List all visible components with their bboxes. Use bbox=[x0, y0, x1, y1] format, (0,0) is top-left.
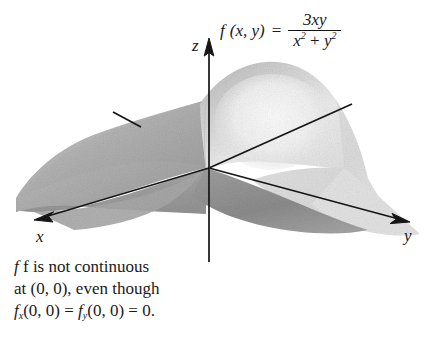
y-axis-label: y bbox=[404, 226, 412, 246]
caption-line-3-mid: (0, 0) = bbox=[23, 301, 74, 320]
denominator-exp-2: 2 bbox=[331, 31, 336, 42]
caption-line-1-text: f is not continuous bbox=[23, 257, 149, 276]
formula-arguments: (x, y) bbox=[230, 22, 265, 39]
figure-caption: f f is not continuous at (0, 0), even th… bbox=[14, 256, 159, 322]
formula-numerator: 3xy bbox=[298, 11, 332, 30]
surface-plot-figure: f(x, y) = 3xy x2 + y2 z x y f f is not c… bbox=[0, 0, 440, 343]
formula-function-name: f bbox=[220, 22, 225, 39]
denominator-exp-1: 2 bbox=[301, 31, 306, 42]
denominator-plus: + bbox=[310, 31, 320, 50]
caption-line-3: fx(0, 0) = fy(0, 0) = 0. bbox=[14, 300, 159, 322]
function-formula: f(x, y) = 3xy x2 + y2 bbox=[220, 11, 341, 50]
caption-line-2: at (0, 0), even though bbox=[14, 278, 159, 300]
caption-line-1: f f is not continuous bbox=[14, 256, 159, 278]
x-axis-label: x bbox=[36, 227, 44, 247]
z-axis-label: z bbox=[192, 36, 199, 56]
caption-f-italic: f bbox=[14, 257, 19, 276]
formula-denominator: x2 + y2 bbox=[288, 31, 341, 50]
caption-line-3-end: (0, 0) = 0. bbox=[87, 301, 155, 320]
formula-equals: = bbox=[270, 22, 284, 39]
denominator-term-1: x bbox=[293, 31, 301, 50]
formula-fraction: 3xy x2 + y2 bbox=[288, 11, 341, 50]
